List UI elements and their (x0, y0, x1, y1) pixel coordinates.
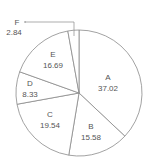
slice-label-a-name: A (105, 73, 111, 82)
slice-label-b-value: 15.58 (81, 133, 102, 142)
slice-label-d-name: D (27, 79, 33, 88)
slice-label-a-value: 37.02 (98, 84, 119, 93)
pie-chart: A 37.02 B 15.58 C 19.54 D 8.33 E 16.69 F… (0, 0, 154, 163)
slice-label-e-value: 16.69 (43, 61, 64, 70)
f-leader-dot (24, 21, 26, 23)
slice-label-e-name: E (50, 50, 55, 59)
slice-label-f-name: F (15, 18, 20, 27)
slice-label-c-name: C (47, 110, 53, 119)
slice-label-c-value: 19.54 (40, 121, 61, 130)
slice-label-f-value: 2.84 (6, 28, 22, 37)
slice-label-b-name: B (88, 122, 93, 131)
slice-label-d-value: 8.33 (22, 90, 38, 99)
